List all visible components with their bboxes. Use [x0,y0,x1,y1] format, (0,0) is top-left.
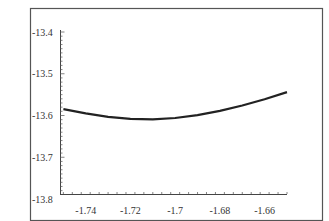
y-tick-label: -13.4 [32,27,53,38]
y-tick-label: -13.5 [32,68,53,79]
x-tick-label: -1.74 [75,205,96,216]
x-tick-label: -1.72 [120,205,141,216]
chart-frame [31,9,323,221]
x-tick-label: -1.68 [209,205,230,216]
line-chart: -13.4-13.5-13.6-13.7-13.8-1.74-1.72-1.7-… [0,0,329,221]
y-tick-label: -13.6 [32,110,53,121]
x-tick-label: -1.66 [254,205,275,216]
x-tick-label: -1.7 [167,205,183,216]
y-tick-label: -13.8 [32,194,53,205]
y-tick-label: -13.7 [32,152,53,163]
